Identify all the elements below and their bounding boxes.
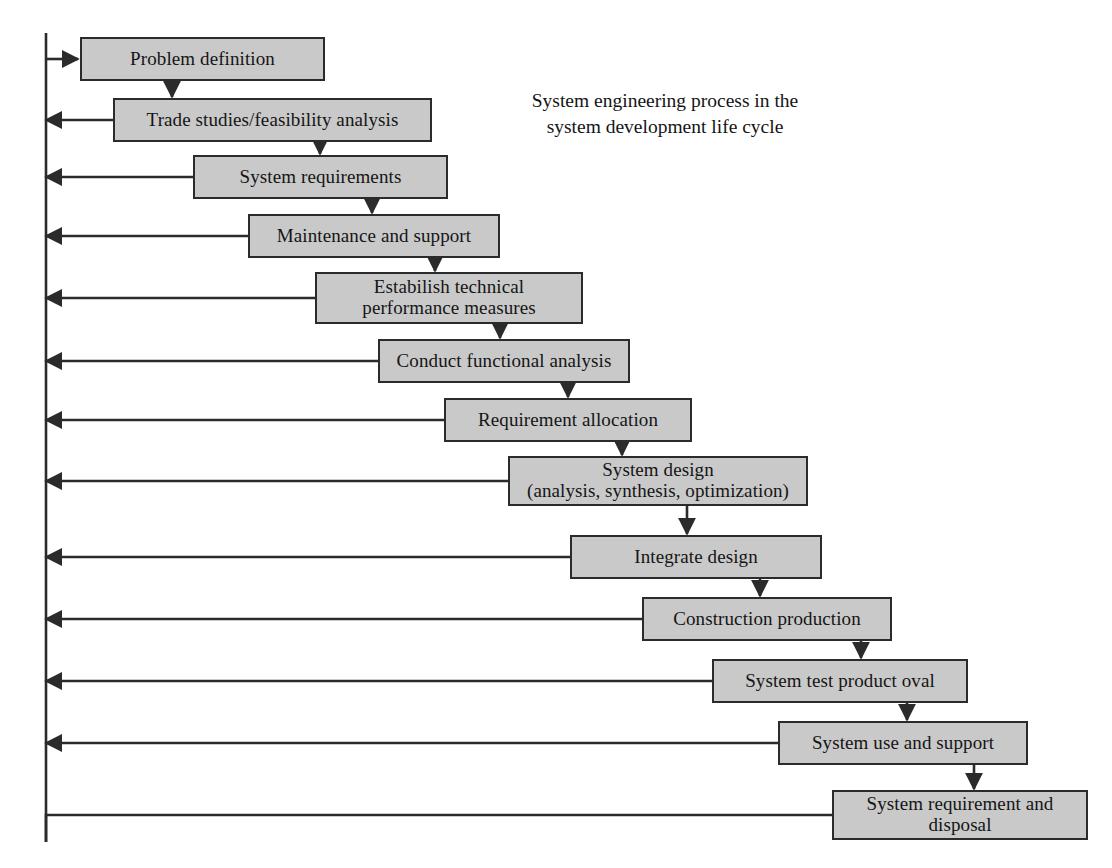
process-node-trade-studies[interactable]: Trade studies/feasibility analysis xyxy=(113,98,432,142)
diagram-title: System engineering process in the system… xyxy=(500,88,830,141)
process-node-maintenance-and-support[interactable]: Maintenance and support xyxy=(248,214,500,258)
feedback-return-path-system-requirement-disposal xyxy=(46,815,833,842)
process-node-system-requirement-disposal[interactable]: System requirement and disposal xyxy=(832,790,1088,840)
process-node-requirement-allocation[interactable]: Requirement allocation xyxy=(444,398,692,442)
process-node-conduct-functional[interactable]: Conduct functional analysis xyxy=(378,339,630,383)
system-engineering-process-diagram: Problem definitionTrade studies/feasibil… xyxy=(0,0,1112,868)
process-node-system-design[interactable]: System design (analysis, synthesis, opti… xyxy=(508,456,808,506)
process-node-construction-production[interactable]: Construction production xyxy=(642,597,892,641)
process-node-technical-performance[interactable]: Estabilish technical performance measure… xyxy=(315,272,583,324)
process-node-system-use-and-support[interactable]: System use and support xyxy=(778,721,1028,765)
process-node-integrate-design[interactable]: Integrate design xyxy=(570,535,822,579)
process-node-system-requirements[interactable]: System requirements xyxy=(193,155,448,199)
process-node-system-test-product-oval[interactable]: System test product oval xyxy=(712,659,968,703)
process-node-problem-definition[interactable]: Problem definition xyxy=(80,37,325,81)
